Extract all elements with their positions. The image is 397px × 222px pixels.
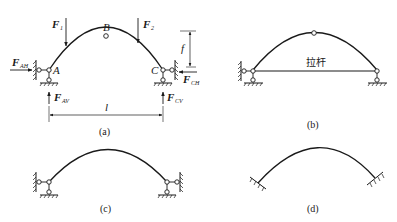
reaction-fcv: F CV (163, 91, 184, 104)
svg-text:f: f (181, 42, 186, 54)
label-b: B (103, 21, 110, 33)
crown-hinge (312, 31, 317, 36)
left-fixed-support (250, 177, 266, 191)
svg-text:l: l (105, 101, 108, 113)
right-fixed-support (367, 172, 384, 187)
arch-curve-c (49, 150, 167, 183)
reaction-fav: F AV (49, 91, 70, 104)
right-support-c: C (151, 60, 178, 86)
crown-hinge-b (104, 34, 109, 39)
caption-b: (b) (307, 119, 319, 131)
svg-text:AV: AV (61, 98, 70, 104)
load-f1: F 1 (51, 18, 66, 46)
svg-text:F: F (182, 73, 191, 85)
svg-text:F: F (53, 91, 62, 103)
panel-c-two-hinged-arch: (c) (33, 150, 183, 216)
panel-d-fixed-arch: (d) (250, 148, 384, 215)
svg-text:C: C (151, 64, 159, 76)
svg-text:CV: CV (175, 98, 184, 104)
reaction-fah: F AH (10, 56, 32, 70)
svg-text:A: A (52, 64, 60, 76)
svg-text:1: 1 (60, 25, 63, 31)
panel-b-tied-arch: 拉杆 (b) (238, 31, 387, 131)
caption-a: (a) (99, 126, 110, 138)
caption-c: (c) (100, 203, 111, 215)
reaction-fch: F CH (179, 72, 200, 86)
tie-rod-label: 拉杆 (306, 56, 326, 68)
span-dimension-l: l (49, 101, 163, 122)
svg-text:F: F (166, 91, 175, 103)
caption-d: (d) (307, 203, 319, 215)
svg-text:F: F (142, 18, 151, 30)
svg-text:F: F (51, 18, 60, 30)
svg-text:F: F (11, 56, 20, 68)
arch-types-diagram: B A C (0, 0, 397, 222)
left-support-a: A (33, 60, 60, 86)
arch-curve-d (258, 148, 375, 183)
svg-text:2: 2 (151, 25, 154, 31)
svg-text:AH: AH (19, 63, 29, 69)
panel-a-three-hinged-arch: B A C (10, 18, 200, 138)
left-support (238, 61, 263, 86)
svg-text:CH: CH (191, 80, 200, 86)
rise-dimension-f: f (180, 31, 196, 67)
load-f2: F 2 (138, 18, 154, 43)
